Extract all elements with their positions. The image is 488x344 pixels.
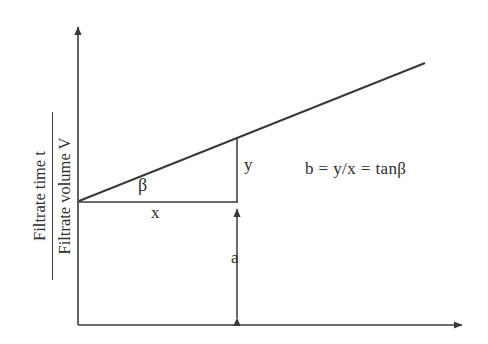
rise-label-y: y xyxy=(244,156,253,173)
y-axis-label-denominator: Filtrate volume V xyxy=(55,138,74,255)
slope-equation: b = y/x = tanβ xyxy=(305,160,406,177)
data-line xyxy=(79,63,425,201)
run-label-x: x xyxy=(151,204,160,221)
angle-label-beta: β xyxy=(138,176,147,194)
y-axis-label: Filtrate time t Filtrate volume V xyxy=(24,101,80,291)
fraction-bar xyxy=(52,112,53,280)
y-axis-label-numerator: Filtrate time t xyxy=(30,151,49,241)
intercept-label-a: a xyxy=(231,249,239,266)
filtration-slope-diagram: Filtrate time t Filtrate volume V β x y … xyxy=(0,0,488,344)
